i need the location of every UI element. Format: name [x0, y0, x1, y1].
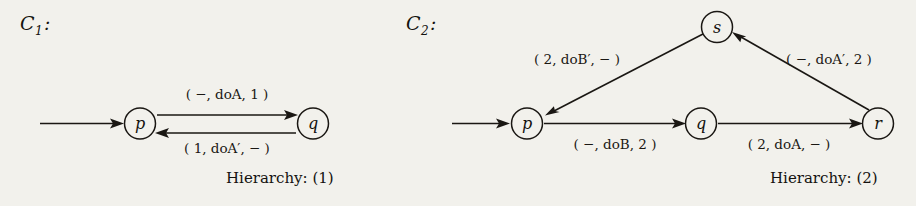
- c1-edge-p-to-q-label: ( −, doA, 1 ): [186, 86, 269, 102]
- system-c2: C 2 : p q r: [406, 12, 894, 188]
- system-c2-label-base: C: [406, 12, 421, 34]
- system-c1-label: C 1 :: [20, 12, 50, 38]
- transition-systems-figure: C 1 : p q (: [0, 0, 916, 206]
- c2-node-s-label: s: [713, 18, 721, 37]
- c2-node-q-label: q: [696, 114, 706, 133]
- system-c2-label-subscript: 2: [420, 24, 429, 38]
- system-c1-label-colon: :: [44, 12, 50, 34]
- c1-edge-p-to-q: [157, 110, 298, 120]
- c2-node-s: s: [702, 12, 733, 43]
- c1-node-q: q: [298, 108, 329, 139]
- c1-caption: Hierarchy: (1): [226, 169, 334, 187]
- c2-initial-arrow: [452, 119, 510, 129]
- c2-node-p-label: p: [522, 114, 532, 133]
- system-c2-label-colon: :: [430, 12, 436, 34]
- c1-edge-q-to-p: [155, 128, 296, 138]
- c2-node-p: p: [512, 108, 543, 139]
- c1-initial-arrow: [40, 119, 124, 129]
- figure-canvas: C 1 : p q (: [0, 0, 916, 206]
- c2-edge-p-to-q-label: ( −, doB, 2 ): [574, 136, 657, 152]
- c2-caption: Hierarchy: (2): [770, 169, 878, 187]
- c2-edge-r-to-s-label: ( −, doA′, 2 ): [786, 51, 872, 67]
- c1-edge-q-to-p-label: ( 1, doA′, − ): [184, 140, 270, 156]
- c2-edge-q-to-r-label: ( 2, doA, − ): [748, 136, 831, 152]
- c2-node-r-label: r: [874, 114, 883, 133]
- system-c1-label-base: C: [20, 12, 35, 34]
- c2-edge-p-to-q: [544, 119, 686, 129]
- c1-node-p: p: [125, 108, 156, 139]
- system-c2-label: C 2 :: [406, 12, 436, 38]
- system-c1: C 1 : p q (: [20, 12, 334, 187]
- c2-edge-s-to-p-label: ( 2, doB′, − ): [534, 51, 620, 67]
- system-c1-label-subscript: 1: [35, 24, 43, 38]
- c2-node-r: r: [863, 108, 894, 139]
- c2-edge-s-to-p: [545, 34, 703, 116]
- c2-edge-q-to-r: [718, 119, 863, 129]
- c1-node-q-label: q: [308, 114, 318, 133]
- c2-node-q: q: [686, 108, 717, 139]
- c2-edge-r-to-s: [732, 32, 869, 110]
- c1-node-p-label: p: [135, 114, 145, 133]
